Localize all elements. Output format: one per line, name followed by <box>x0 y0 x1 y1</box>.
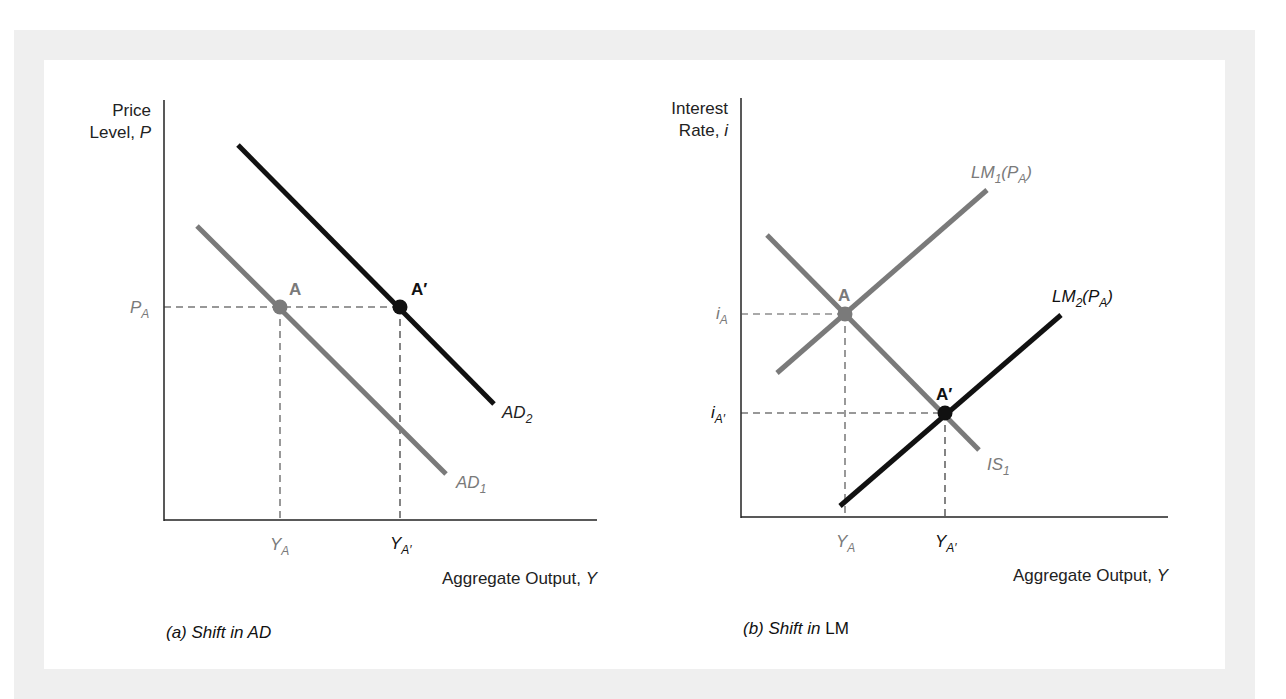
chart-b-caption: (b) Shift in LM <box>743 619 849 638</box>
chart-a-point-a-prime <box>393 300 408 315</box>
ad1-label: AD1 <box>455 473 486 496</box>
chart-a-caption: (a) Shift in AD <box>166 623 271 642</box>
is1-label: IS1 <box>987 455 1010 478</box>
lm2-label: LM2(PA) <box>1052 287 1113 310</box>
chart-a-point-a-prime-label: A′ <box>411 280 427 299</box>
chart-b-ylabel-line2: Rate, i <box>679 121 729 140</box>
chart-b-point-a <box>838 307 853 322</box>
chart-a-tick-pa: PA <box>130 298 149 321</box>
chart-b-point-a-prime-label: A′ <box>936 385 952 404</box>
ad1-curve <box>197 226 446 474</box>
ad2-curve <box>238 145 494 404</box>
chart-b: Interest Rate, i A A′ iA iA′ YA YA′ LM1(… <box>671 98 1169 638</box>
ad2-label: AD2 <box>501 403 533 426</box>
chart-b-point-a-label: A <box>838 286 850 305</box>
lm1-curve <box>777 190 987 373</box>
chart-b-tick-ia: iA <box>716 304 728 327</box>
chart-b-tick-ia-prime: iA′ <box>711 403 726 426</box>
chart-b-ylabel-line1: Interest <box>671 99 728 118</box>
chart-b-point-a-prime <box>938 406 953 421</box>
lm1-label: LM1(PA) <box>971 163 1032 186</box>
chart-a-ylabel-line2: Level, P <box>90 123 152 142</box>
chart-a-point-a-label: A <box>289 280 301 299</box>
chart-b-xlabel: Aggregate Output, Y <box>1013 566 1170 585</box>
chart-b-tick-ya: YA <box>836 532 855 555</box>
chart-a-point-a <box>273 300 288 315</box>
figure-svg: Price Level, P A A′ PA YA YA′ AD2 AD1 Ag… <box>0 0 1286 699</box>
chart-a-xlabel: Aggregate Output, Y <box>442 569 599 588</box>
chart-a-tick-ya: YA <box>270 535 289 558</box>
chart-a-ylabel-line1: Price <box>112 101 151 120</box>
chart-b-tick-ya-prime: YA′ <box>935 532 957 555</box>
chart-a-tick-ya-prime: YA′ <box>390 534 412 557</box>
chart-a: Price Level, P A A′ PA YA YA′ AD2 AD1 Ag… <box>90 100 599 642</box>
